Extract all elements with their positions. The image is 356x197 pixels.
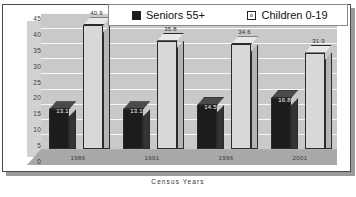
y-tick-label: 35	[19, 48, 41, 55]
y-tick-row: 25	[3, 80, 41, 81]
y-tick-row: 30	[3, 64, 41, 65]
legend-item-children: Children 0-19	[228, 9, 347, 21]
x-axis-title: Census Years	[0, 178, 356, 185]
legend-item-seniors: Seniors 55+	[109, 9, 228, 21]
bar-side-face	[217, 105, 224, 149]
bar-children-1996	[231, 44, 251, 149]
legend-label-children: Children 0-19	[261, 9, 327, 21]
bar-seniors-2001	[271, 98, 291, 149]
plot-area: 051015202530354045 13.140.913.135.814.53…	[3, 5, 350, 171]
bar-value-label: 34.6	[231, 29, 258, 35]
y-tick-label: 25	[19, 80, 41, 87]
bar-side-face	[291, 98, 298, 149]
y-tick-label: 30	[19, 64, 41, 71]
y-tick-label: 15	[19, 111, 41, 118]
x-tick-label-1996: 1996	[196, 155, 256, 161]
bar-front-face	[49, 109, 69, 149]
bar-children-1991	[157, 41, 177, 149]
bar-side-face	[103, 25, 110, 149]
legend-label-seniors: Seniors 55+	[146, 9, 205, 21]
chart-legend: Seniors 55+ Children 0-19	[108, 4, 348, 26]
bar-value-label: 40.9	[83, 10, 110, 16]
bar-front-face	[271, 98, 291, 149]
y-tick-label: 45	[19, 16, 41, 23]
bar-seniors-1991	[123, 109, 143, 149]
x-tick-label-1991: 1991	[122, 155, 182, 161]
bar-value-label: 14.5	[197, 104, 224, 110]
seniors-swatch-icon	[132, 11, 141, 20]
bar-side-face	[177, 41, 184, 149]
census-population-bar-chart: 051015202530354045 13.140.913.135.814.53…	[0, 0, 356, 197]
y-tick-row: 45	[3, 16, 41, 17]
bar-front-face	[83, 25, 103, 149]
bar-front-face	[157, 41, 177, 149]
y-tick-row: 5	[3, 143, 41, 144]
bar-value-label: 31.9	[305, 38, 332, 44]
y-tick-row: 35	[3, 48, 41, 49]
x-tick-label-1986: 1986	[48, 155, 108, 161]
y-tick-row: 10	[3, 127, 41, 128]
bar-seniors-1996	[197, 105, 217, 149]
bar-side-face	[325, 53, 332, 149]
bar-children-2001	[305, 53, 325, 149]
bar-seniors-1986	[49, 109, 69, 149]
bar-front-face	[197, 105, 217, 149]
y-tick-row: 15	[3, 111, 41, 112]
gridline	[41, 149, 337, 150]
bar-value-label: 13.1	[123, 108, 150, 114]
bar-front-face	[123, 109, 143, 149]
bar-children-1986	[83, 25, 103, 149]
children-swatch-icon	[247, 11, 256, 20]
y-tick-label: 20	[19, 95, 41, 102]
y-tick-label: 5	[19, 143, 41, 150]
y-tick-label: 40	[19, 32, 41, 39]
y-tick-row: 40	[3, 32, 41, 33]
bar-side-face	[251, 44, 258, 149]
y-tick-row: 20	[3, 95, 41, 96]
plot-left-wall-face	[27, 21, 42, 157]
y-tick-row: 0	[3, 159, 41, 160]
y-tick-label: 10	[19, 127, 41, 134]
bar-value-label: 16.8	[271, 97, 298, 103]
bar-value-label: 13.1	[49, 108, 76, 114]
y-tick-label: 0	[19, 159, 41, 166]
bar-value-label: 35.8	[157, 26, 184, 32]
bar-front-face	[305, 53, 325, 149]
x-tick-label-2001: 2001	[270, 155, 330, 161]
bar-front-face	[231, 44, 251, 149]
